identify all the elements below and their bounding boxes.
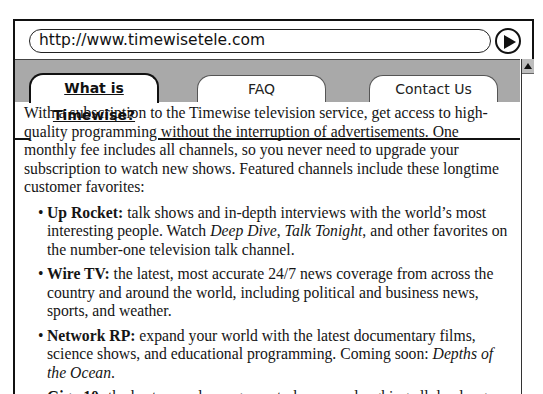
channel-description: , bbox=[277, 222, 285, 239]
tab-baseline bbox=[158, 138, 520, 140]
page-content: With a subscription to the Timewise tele… bbox=[15, 101, 520, 394]
tab-label: FAQ bbox=[248, 81, 275, 97]
scroll-up-button[interactable] bbox=[522, 59, 534, 74]
show-title: Deep Dive bbox=[210, 222, 277, 239]
tab-what-is-timewise[interactable]: What is Timewise? bbox=[29, 73, 159, 103]
tab-label: Contact Us bbox=[395, 81, 471, 97]
list-item-up-rocket: • Up Rocket: talk shows and in-depth int… bbox=[38, 204, 514, 260]
go-button[interactable] bbox=[495, 28, 521, 54]
tab-bar: What is Timewise? FAQ Contact Us bbox=[15, 59, 520, 102]
list-item-giga-10: • Giga 10: the best comedy programs to k… bbox=[38, 388, 514, 394]
vertical-scrollbar[interactable] bbox=[521, 59, 534, 394]
browser-window: http://www.timewisetele.com What is Time… bbox=[13, 19, 534, 394]
channel-description: the best comedy programs to keep you lau… bbox=[47, 388, 491, 394]
tab-faq[interactable]: FAQ bbox=[197, 75, 326, 102]
channel-list: • Up Rocket: talk shows and in-depth int… bbox=[24, 204, 514, 394]
play-triangle-icon bbox=[503, 35, 516, 49]
tab-contact-us[interactable]: Contact Us bbox=[369, 75, 498, 102]
bullet: • bbox=[38, 204, 44, 223]
url-input[interactable]: http://www.timewisetele.com bbox=[29, 29, 491, 53]
tab-baseline bbox=[15, 138, 30, 140]
list-item-wire-tv: • Wire TV: the latest, most accurate 24/… bbox=[38, 265, 514, 321]
channel-name: Network RP: bbox=[47, 327, 135, 344]
channel-name: Up Rocket: bbox=[47, 204, 123, 221]
show-title: Talk Tonight bbox=[285, 222, 363, 239]
bullet: • bbox=[38, 388, 44, 394]
bullet: • bbox=[38, 265, 44, 284]
channel-description: . bbox=[111, 364, 115, 381]
bullet: • bbox=[38, 327, 44, 346]
channel-name: Giga 10: bbox=[47, 388, 104, 394]
triangle-up-icon bbox=[524, 63, 532, 69]
channel-description: the latest, most accurate 24/7 news cove… bbox=[47, 265, 493, 319]
tab-label: What is Timewise? bbox=[53, 80, 135, 123]
list-item-network-rp: • Network RP: expand your world with the… bbox=[38, 327, 514, 383]
channel-name: Wire TV: bbox=[47, 265, 110, 282]
